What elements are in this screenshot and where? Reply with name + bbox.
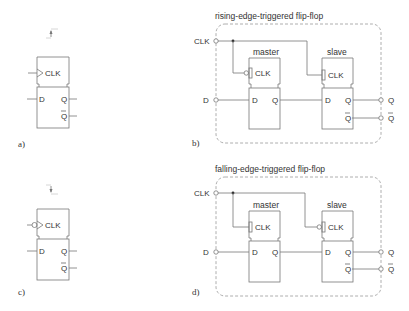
master-q-label: Q [272,248,278,257]
enclosure-dashed [216,177,381,296]
d-label: D [39,95,45,104]
inversion-bubble-icon [317,225,321,229]
master-q-label: Q [272,96,278,105]
master-clk-label: CLK [255,223,271,232]
port-qbar-icon [379,267,383,271]
master-label: master [253,47,279,57]
slave-clk-label: CLK [328,223,344,232]
qbar-label: Q [61,112,67,121]
clk-label: CLK [45,221,61,230]
panel-label-b: b) [192,138,200,148]
clk-label: CLK [45,69,61,78]
panel-a [27,29,77,128]
clock-triangle-icon [37,221,43,229]
master-clk-pin [249,68,252,78]
master-d-label: D [252,248,258,257]
port-clk-icon [214,39,218,43]
master-clk-pin [249,222,252,232]
diagram-title: rising-edge-triggered flip-flop [215,11,323,21]
slave-q-label: Q [345,248,351,257]
ext-d-label: D [203,248,209,257]
slave-qbar-label: Q [345,114,351,123]
slave-d-label: D [325,248,331,257]
slave-clk-pin [322,70,325,80]
ext-qbar-label: Q [388,265,394,274]
ext-d-label: D [203,96,209,105]
ext-q-label: Q [388,96,394,105]
flip-flop-diagram: CLK D Q Q a) CLK D Q Q c) rising-edge-tr… [0,0,409,311]
qbar-label: Q [61,264,67,273]
port-qbar-icon [379,116,383,120]
port-d-icon [214,98,218,102]
inversion-bubble-icon [244,71,248,75]
port-clk-icon [214,191,218,195]
q-label: Q [61,95,67,104]
port-q-icon [379,250,383,254]
q-label: Q [61,247,67,256]
enclosure-dashed [216,24,381,143]
rising-edge-arrow-icon [46,29,58,38]
ext-q-label: Q [388,248,394,257]
panel-label-d: d) [192,287,200,297]
panel-b [214,24,383,143]
slave-clk-pin [322,222,325,232]
master-latch-box [249,88,280,129]
slave-clk-label: CLK [328,71,344,80]
panel-label-a: a) [18,139,25,149]
ext-clk-label: CLK [194,37,210,46]
port-q-icon [379,98,383,102]
d-label: D [39,247,45,256]
panel-c [27,185,77,280]
slave-d-label: D [325,96,331,105]
ext-clk-label: CLK [194,189,210,198]
master-clk-label: CLK [255,69,271,78]
inversion-bubble-icon [32,223,37,228]
master-label: master [253,200,279,210]
port-d-icon [214,250,218,254]
panel-d [214,177,383,296]
master-d-label: D [252,96,258,105]
diagram-title: falling-edge-triggered flip-flop [215,164,325,174]
slave-qbar-label: Q [345,265,351,274]
ext-qbar-label: Q [388,114,394,123]
clock-triangle-icon [37,69,43,77]
falling-edge-arrow-icon [46,185,58,194]
latch-box [37,87,69,128]
panel-label-c: c) [18,287,25,297]
latch-box [37,239,69,280]
slave-q-label: Q [345,96,351,105]
slave-label: slave [327,200,347,210]
slave-label: slave [327,47,347,57]
